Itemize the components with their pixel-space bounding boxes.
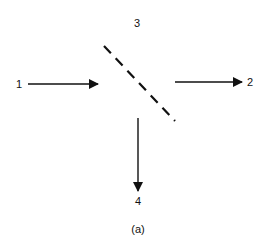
beam-splitter-diagram: [0, 0, 268, 251]
figure-caption: (a): [131, 224, 144, 235]
port-2-label: 2: [247, 77, 253, 88]
port-1-label: 1: [16, 79, 22, 90]
beam-splitter-line: [104, 46, 175, 121]
port-3-label: 3: [134, 18, 140, 29]
port-4-label: 4: [135, 196, 141, 207]
